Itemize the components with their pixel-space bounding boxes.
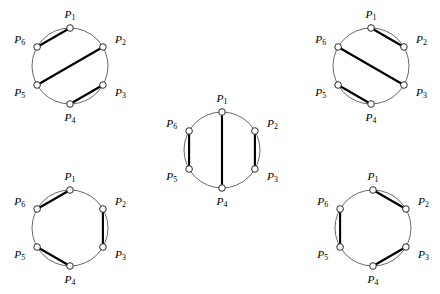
chord-P1-P6 <box>37 190 70 209</box>
chord-P1-P2 <box>371 28 404 47</box>
vertex-label-P6: P6 <box>314 33 326 47</box>
vertex-label-P2: P2 <box>266 117 278 131</box>
vertex-P6 <box>34 44 41 51</box>
vertex-label-P4: P4 <box>365 111 377 125</box>
circle-outline <box>335 190 411 266</box>
circle-outline <box>32 190 108 266</box>
vertex-label-P3: P3 <box>417 248 429 262</box>
chord-P5-P4 <box>37 247 70 266</box>
vertex-label-P1: P1 <box>367 170 379 184</box>
vertex-label-P1: P1 <box>64 170 76 184</box>
vertex-P4 <box>67 101 74 108</box>
vertex-label-P6: P6 <box>316 195 328 209</box>
chord-P1-P6 <box>37 28 70 47</box>
vertex-P5 <box>337 244 344 251</box>
vertex-P5 <box>34 82 41 89</box>
vertex-label-P5: P5 <box>13 86 25 100</box>
vertex-label-P6: P6 <box>165 117 177 131</box>
chord-P1-P2 <box>373 190 406 209</box>
vertex-label-P3: P3 <box>114 248 126 262</box>
vertex-label-P2: P2 <box>415 33 427 47</box>
matching-diagram-bottom-left: P1P2P3P4P5P6 <box>2 160 138 294</box>
vertex-label-P2: P2 <box>114 33 126 47</box>
vertex-P5 <box>34 244 41 251</box>
vertex-label-P4: P4 <box>367 273 379 287</box>
vertex-P3 <box>100 82 107 89</box>
vertex-label-P4: P4 <box>216 195 228 209</box>
vertex-P1 <box>67 187 74 194</box>
vertex-P3 <box>252 166 259 173</box>
vertex-label-P6: P6 <box>13 195 25 209</box>
vertex-label-P5: P5 <box>316 248 328 262</box>
vertex-label-P4: P4 <box>64 111 76 125</box>
chord-P5-P4 <box>338 85 371 104</box>
matching-diagram-top-right: P1P2P3P4P5P6 <box>303 0 439 134</box>
vertex-label-P3: P3 <box>415 86 427 100</box>
vertex-label-P1: P1 <box>365 8 377 22</box>
matching-diagram-top-left: P1P2P3P4P5P6 <box>2 0 138 134</box>
vertex-P4 <box>219 185 226 192</box>
vertex-P3 <box>100 244 107 251</box>
vertex-P2 <box>403 206 410 213</box>
vertex-label-P5: P5 <box>165 170 177 184</box>
vertex-P6 <box>34 206 41 213</box>
chord-P2-P5 <box>37 47 103 85</box>
vertex-label-P1: P1 <box>64 8 76 22</box>
vertex-P6 <box>335 44 342 51</box>
chord-P4-P3 <box>373 247 406 266</box>
vertex-P1 <box>67 25 74 32</box>
vertex-P1 <box>219 109 226 116</box>
vertex-P4 <box>368 101 375 108</box>
vertex-P5 <box>186 166 193 173</box>
vertex-label-P2: P2 <box>114 195 126 209</box>
vertex-P4 <box>67 263 74 270</box>
vertex-P6 <box>337 206 344 213</box>
vertex-P4 <box>370 263 377 270</box>
chord-P3-P4 <box>70 85 103 104</box>
matching-diagram-center: P1P2P3P4P5P6 <box>154 82 290 218</box>
vertex-label-P1: P1 <box>216 92 228 106</box>
vertex-label-P6: P6 <box>13 33 25 47</box>
vertex-label-P4: P4 <box>64 273 76 287</box>
vertex-P2 <box>401 44 408 51</box>
matching-diagram-bottom-right: P1P2P3P4P5P6 <box>305 160 440 294</box>
vertex-P2 <box>100 44 107 51</box>
vertex-P3 <box>401 82 408 89</box>
vertex-label-P5: P5 <box>13 248 25 262</box>
vertex-P2 <box>100 206 107 213</box>
vertex-P1 <box>368 25 375 32</box>
vertex-label-P5: P5 <box>314 86 326 100</box>
vertex-P3 <box>403 244 410 251</box>
figure-canvas: P1P2P3P4P5P6P1P2P3P4P5P6P1P2P3P4P5P6P1P2… <box>0 0 440 294</box>
vertex-P5 <box>335 82 342 89</box>
vertex-label-P2: P2 <box>417 195 429 209</box>
vertex-label-P3: P3 <box>266 170 278 184</box>
vertex-P1 <box>370 187 377 194</box>
chord-P6-P3 <box>338 47 404 85</box>
vertex-label-P3: P3 <box>114 86 126 100</box>
vertex-P6 <box>186 128 193 135</box>
vertex-P2 <box>252 128 259 135</box>
